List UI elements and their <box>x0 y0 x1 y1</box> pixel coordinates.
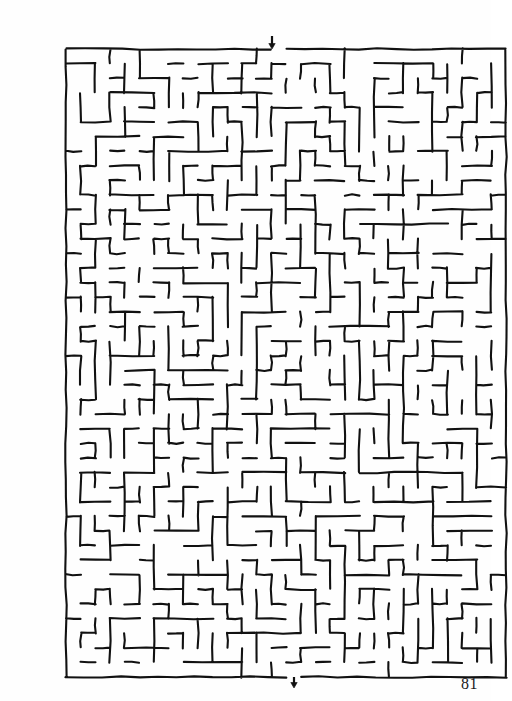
maze-wall-group <box>65 48 506 677</box>
entrance-arrow-icon <box>269 36 275 49</box>
exit-arrow-icon <box>291 677 297 688</box>
entrance-arrow-head <box>269 44 275 50</box>
maze-drawing <box>40 16 512 701</box>
page-number: 81 <box>461 676 478 692</box>
maze-walls-path <box>65 48 506 677</box>
maze-figure <box>40 16 512 701</box>
exit-arrow-head <box>291 683 297 689</box>
